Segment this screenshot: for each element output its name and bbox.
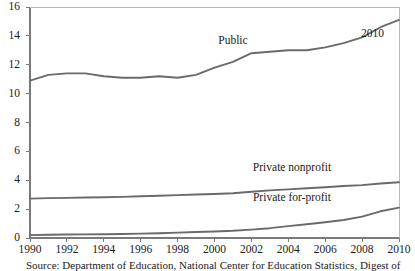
- x-tick-label: 2006: [305, 244, 345, 256]
- series-line-private-nonprofit: [30, 182, 399, 198]
- x-tick-label: 1990: [10, 244, 50, 256]
- source-note: Source: Department of Education, Nationa…: [26, 259, 401, 271]
- series-group: [30, 20, 399, 235]
- series-label-private-for-profit: Private for-profit: [253, 191, 331, 203]
- series-line-public: [30, 20, 399, 81]
- series-label-public: Public: [218, 34, 247, 46]
- x-tick-label: 1998: [158, 244, 198, 256]
- endpoint-year-label: 2010: [361, 27, 384, 39]
- y-tick-label: 16: [0, 1, 20, 13]
- axes-group: [26, 7, 399, 242]
- x-tick-label: 1992: [47, 244, 87, 256]
- y-tick-label: 4: [0, 174, 20, 186]
- x-tick-label: 2002: [231, 244, 271, 256]
- x-tick-label: 2008: [342, 244, 382, 256]
- x-tick-label: 2010: [379, 244, 415, 256]
- x-tick-label: 1994: [84, 244, 124, 256]
- y-tick-label: 8: [0, 117, 20, 129]
- y-tick-label: 0: [0, 232, 20, 244]
- series-line-private-for-profit: [30, 208, 399, 235]
- y-tick-label: 6: [0, 145, 20, 157]
- y-tick-label: 14: [0, 30, 20, 42]
- x-tick-label: 1996: [121, 244, 161, 256]
- x-tick-label: 2000: [195, 244, 235, 256]
- x-tick-label: 2004: [268, 244, 308, 256]
- y-tick-label: 2: [0, 203, 20, 215]
- y-tick-label: 10: [0, 88, 20, 100]
- series-label-private-nonprofit: Private nonprofit: [253, 161, 331, 173]
- y-tick-label: 12: [0, 59, 20, 71]
